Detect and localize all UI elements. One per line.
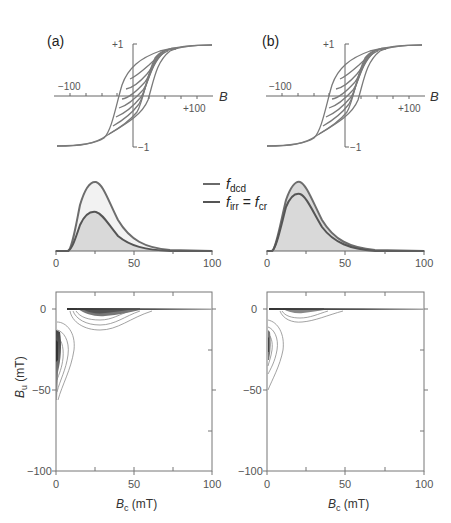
x-tick-50-dist-b: 50 [339,257,351,269]
figure-canvas: (a) (b) +1 −1 −100 +100 B [0,0,451,523]
y-tick-plus1-a: +1 [112,39,124,50]
hysteresis-plot-a [54,44,213,147]
x-tick-plus100-a: +100 [183,103,206,114]
y-axis-label-forc-a: Bu (mT) [13,356,29,398]
y-tick-minus1-b: −1 [350,142,362,153]
x-tick-100-dist-b: 100 [415,257,433,269]
x-tick-100-dist-a: 100 [203,257,221,269]
x-tick-minus100-b: −100 [269,81,292,92]
x-tick-plus100-b: +100 [398,103,421,114]
x-tick-100-forc-a: 100 [203,478,221,490]
x-tick-0-dist-a: 0 [53,257,59,269]
y-tick-minus50-forc-b: −50 [243,384,262,396]
y-tick-minus50-forc-a: −50 [32,384,51,396]
x-axis-label-a: B [219,89,228,104]
legend-label-irr-cr: firr = fcr [226,194,268,212]
x-axis-label-forc-a: Bc (mT) [116,497,157,513]
x-tick-0-dist-b: 0 [264,257,270,269]
distribution-plot-b [266,182,425,255]
x-tick-minus100-a: −100 [58,81,81,92]
forc-diagram-b [263,292,428,475]
panel-label-a: (a) [47,33,64,49]
y-tick-minus100-forc-b: −100 [238,465,263,477]
forc-diagram-a [52,292,216,475]
x-tick-50-forc-a: 50 [128,478,140,490]
y-tick-minus1-a: −1 [138,142,150,153]
x-tick-0-forc-b: 0 [264,478,270,490]
panel-label-b: (b) [262,33,279,49]
legend-label-dcd: fdcd [226,176,246,194]
x-tick-50-dist-a: 50 [128,257,140,269]
distribution-plot-a [55,182,213,255]
hysteresis-plot-b [266,44,425,147]
x-tick-100-forc-b: 100 [415,478,433,490]
x-tick-0-forc-a: 0 [53,478,59,490]
x-axis-label-b: B [430,89,439,104]
x-tick-50-forc-b: 50 [339,478,351,490]
y-tick-minus100-forc-a: −100 [27,465,52,477]
legend: fdcd firr = fcr [203,176,268,212]
y-tick-0-forc-a: 0 [40,303,46,315]
x-axis-label-forc-b: Bc (mT) [328,497,369,513]
y-tick-0-forc-b: 0 [251,303,257,315]
y-tick-plus1-b: +1 [323,39,335,50]
